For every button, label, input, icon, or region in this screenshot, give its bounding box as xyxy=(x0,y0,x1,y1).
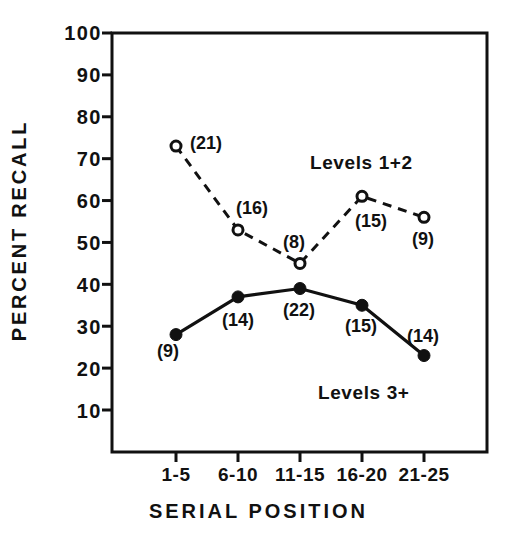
data-point xyxy=(419,212,429,222)
data-point xyxy=(233,225,243,235)
series-lines xyxy=(176,146,424,355)
data-point xyxy=(357,191,367,201)
data-point xyxy=(232,291,244,303)
series-line-2 xyxy=(176,289,424,356)
data-point xyxy=(294,283,306,295)
data-point xyxy=(295,258,305,268)
plot-area xyxy=(0,0,517,539)
data-point xyxy=(171,141,181,151)
figure-container: PERCENT RECALL SERIAL POSITION 100 90 80… xyxy=(0,0,517,539)
series-line-1 xyxy=(176,146,424,263)
data-point xyxy=(418,350,430,362)
axis-frame xyxy=(112,33,487,452)
data-point xyxy=(170,329,182,341)
data-point xyxy=(356,299,368,311)
